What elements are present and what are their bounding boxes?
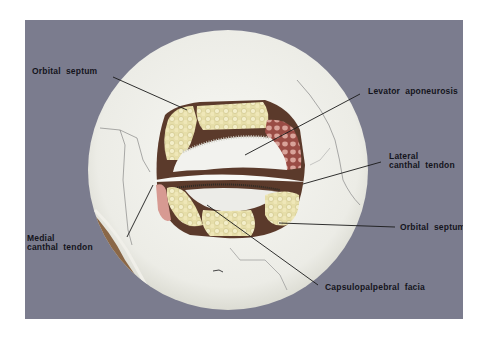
label-capsulopalpebral-facia: Capsulopalpebral facia [325,283,425,292]
label-lateral-canthal-tendon: Lateral canthal tendon [389,152,455,170]
illustration-panel: Orbital septum Levator aponeurosis Later… [25,20,463,319]
orbit-cavity [155,100,307,238]
label-orbital-septum-lower: Orbital septum [400,223,463,232]
label-levator-aponeurosis: Levator aponeurosis [368,87,458,96]
label-medial-canthal-tendon: Medial canthal tendon [27,234,93,252]
label-orbital-septum-upper: Orbital septum [32,67,97,76]
